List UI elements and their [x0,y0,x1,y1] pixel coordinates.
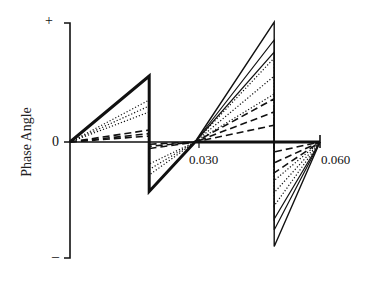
y-axis-title: Phase Angle [19,107,35,177]
y-zero-label: 0 [52,135,59,149]
series-solid-thick [70,76,320,192]
y-axis [64,23,70,258]
y-minus-label: – [52,250,59,264]
series-dashed-3 [70,125,320,152]
y-plus-label: + [45,14,53,28]
series-layer [70,22,320,247]
x-tick-label-0030: 0.030 [189,153,218,166]
x-tick-label-0060: 0.060 [321,153,350,166]
series-dotted-2 [70,76,320,193]
